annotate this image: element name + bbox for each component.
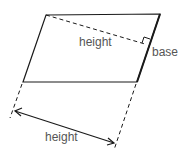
parallelogram-diagram: height base height — [0, 0, 183, 158]
base-label: base — [152, 45, 178, 59]
height-label-outer: height — [45, 130, 78, 144]
height-label-inner: height — [79, 35, 112, 49]
extension-line-right — [114, 84, 136, 150]
right-angle-marker — [142, 37, 150, 43]
